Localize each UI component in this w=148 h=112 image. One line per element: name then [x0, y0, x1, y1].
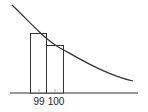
tick-label-100: 100	[48, 96, 65, 107]
tick-label-99: 99	[33, 96, 45, 107]
bar-100	[47, 46, 64, 94]
bar-99	[31, 34, 47, 94]
histogram-with-curve-figure: 99 100	[0, 0, 148, 112]
chart-canvas: 99 100	[0, 0, 148, 112]
